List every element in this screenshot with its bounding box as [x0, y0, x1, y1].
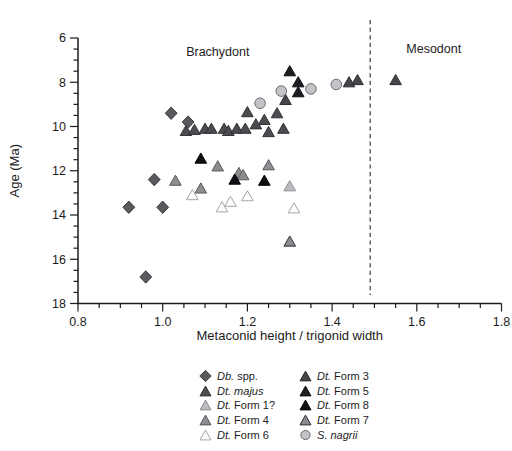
- data-point: [170, 175, 182, 185]
- data-point: [278, 123, 290, 133]
- legend-item-dt-form-3: Dt.Form 3: [299, 369, 369, 384]
- axes-spines: [78, 38, 502, 304]
- y-tick-label: 16: [52, 253, 66, 267]
- legend-item-dt-majus: Dt. majus: [199, 383, 275, 398]
- data-point: [242, 107, 254, 117]
- legend-label: Dt. majus: [217, 385, 263, 397]
- region-label-brachydont: Brachydont: [186, 45, 250, 59]
- y-tick-label: 12: [52, 164, 66, 178]
- figure: 0.81.01.21.41.61.8681012141618Metaconid …: [0, 0, 512, 451]
- data-point: [157, 201, 169, 213]
- data-point: [331, 79, 342, 90]
- x-tick-label: 1.8: [493, 315, 510, 329]
- data-point: [140, 271, 152, 283]
- data-point: [284, 236, 296, 246]
- legend-item-db-spp: Db.spp.: [199, 369, 275, 384]
- triangle-legend-icon: [299, 399, 312, 411]
- y-tick-label: 14: [52, 208, 66, 222]
- triangle-legend-icon: [199, 399, 212, 411]
- legend-item-dt-form-8: Dt.Form 8: [299, 398, 369, 413]
- data-point: [195, 183, 207, 193]
- triangle-legend-icon: [199, 414, 212, 426]
- legend-label: S. nagrii: [317, 429, 357, 441]
- legend-item-dt-form-7: Dt.Form 7: [299, 413, 369, 428]
- y-tick-label: 6: [59, 31, 66, 45]
- series-dt-form-4: [170, 160, 275, 193]
- legend-item-s-nagrii: S. nagrii: [299, 428, 369, 443]
- data-point: [306, 84, 317, 95]
- x-axis-title: Metaconid height / trigonid width: [197, 328, 383, 343]
- legend-item-dt-form-4: Dt.Form 4: [199, 413, 275, 428]
- series-dt-form-7: [284, 236, 296, 246]
- data-point: [390, 74, 402, 84]
- data-point: [195, 153, 207, 163]
- series-dt-majus: [180, 107, 289, 137]
- y-tick-label: 10: [52, 120, 66, 134]
- data-point: [259, 114, 271, 124]
- legend-column-1: Db.spp.Dt. majusDt.Form 1?Dt.Form 4Dt.Fo…: [199, 369, 275, 443]
- data-point: [292, 77, 304, 87]
- data-point: [123, 201, 135, 213]
- legend-column-2: Dt.Form 3Dt.Form 5Dt.Form 8Dt.Form 7S. n…: [299, 369, 369, 443]
- x-tick-label: 1.6: [408, 315, 425, 329]
- diamond-legend-icon: [199, 370, 212, 382]
- y-axis: 681012141618: [52, 31, 78, 311]
- data-point: [263, 160, 275, 170]
- y-tick-label: 18: [52, 297, 66, 311]
- x-tick-label: 1.2: [239, 315, 256, 329]
- data-point: [292, 87, 304, 97]
- data-point: [148, 173, 160, 185]
- legend-label: Dt.Form 5: [317, 385, 369, 397]
- circle-legend-icon: [299, 429, 312, 441]
- data-point: [255, 98, 266, 109]
- legend-item-dt-form-6: Dt.Form 6: [199, 428, 275, 443]
- data-point: [212, 161, 224, 171]
- data-point: [284, 66, 296, 76]
- data-point: [259, 175, 271, 185]
- data-point: [225, 196, 237, 206]
- legend-item-dt-form-1: Dt.Form 1?: [199, 398, 275, 413]
- x-tick-label: 1.4: [323, 315, 340, 329]
- data-point: [352, 74, 364, 84]
- legend-item-dt-form-5: Dt.Form 5: [299, 383, 369, 398]
- data-point: [271, 108, 283, 118]
- legend-label: Dt.Form 3: [317, 370, 369, 382]
- data-point: [276, 86, 287, 97]
- data-point: [284, 181, 296, 191]
- x-axis: 0.81.01.21.41.61.8: [69, 304, 510, 329]
- series-dt-form-8: [195, 153, 270, 185]
- x-tick-label: 0.8: [69, 315, 86, 329]
- series-dt-form-1: [284, 181, 296, 191]
- data-point: [182, 116, 194, 128]
- legend-label: Db.spp.: [217, 370, 258, 382]
- data-point: [263, 126, 275, 136]
- triangle-legend-icon: [199, 429, 212, 441]
- data-point: [239, 123, 251, 133]
- triangle-legend-icon: [299, 414, 312, 426]
- y-axis-title: Age (Ma): [7, 144, 22, 197]
- legend-label: Dt.Form 1?: [217, 399, 275, 411]
- triangle-legend-icon: [199, 385, 212, 397]
- y-tick-label: 8: [59, 76, 66, 90]
- scatter-plot: 0.81.01.21.41.61.8681012141618Metaconid …: [0, 0, 512, 356]
- legend-label: Dt.Form 6: [217, 429, 269, 441]
- x-tick-label: 1.0: [154, 315, 171, 329]
- triangle-legend-icon: [299, 370, 312, 382]
- legend-label: Dt.Form 8: [317, 399, 369, 411]
- data-point: [288, 203, 300, 213]
- data-point: [242, 191, 254, 201]
- legend-label: Dt.Form 4: [217, 414, 269, 426]
- data-point: [165, 107, 177, 119]
- legend-label: Dt.Form 7: [317, 414, 369, 426]
- triangle-legend-icon: [299, 385, 312, 397]
- region-label-mesodont: Mesodont: [406, 42, 461, 56]
